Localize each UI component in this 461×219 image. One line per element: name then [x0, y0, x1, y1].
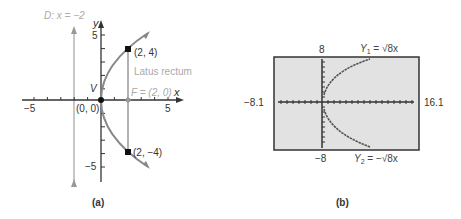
latus-rectum-label: Latus rectum: [134, 66, 192, 77]
point-2-neg4-label: (2, −4): [133, 147, 162, 158]
focus-label: F = (2, 0): [131, 87, 172, 98]
x-tick-5: 5: [165, 103, 171, 114]
panel-a: D: x = −2 x −5 5 y 5 −5 Latus rectum: [22, 10, 192, 208]
point-2-4-label: (2, 4): [134, 47, 157, 58]
y2-equation-label: Y2 = −√8x: [354, 153, 398, 165]
point-2-4: [125, 46, 131, 52]
y-tick-5: 5: [92, 30, 98, 41]
window-xmax: 16.1: [424, 97, 444, 108]
focus-point: [126, 98, 131, 103]
panel-a-label: (a): [92, 197, 104, 208]
origin-label: (0, 0): [76, 103, 99, 114]
x-tick-neg5: −5: [24, 103, 36, 114]
window-xmin: −8.1: [244, 97, 264, 108]
window-ymin: −8: [315, 153, 327, 164]
vertex-label: V: [90, 83, 98, 94]
panel-b: 8 −8 −8.1 16.1 Y1 = √8x Y2 = −√8x (b): [244, 43, 444, 208]
point-2-neg4: [125, 149, 131, 155]
y1-equation-label: Y1 = √8x: [360, 43, 398, 55]
panel-b-label: (b): [336, 197, 349, 208]
y-tick-neg5: −5: [85, 161, 97, 172]
window-ymax: 8: [319, 44, 325, 55]
y-axis-label: y: [92, 17, 100, 29]
figure-canvas: D: x = −2 x −5 5 y 5 −5 Latus rectum: [0, 0, 461, 219]
x-axis-label: x: [173, 86, 180, 98]
directrix-label: D: x = −2: [44, 10, 85, 21]
